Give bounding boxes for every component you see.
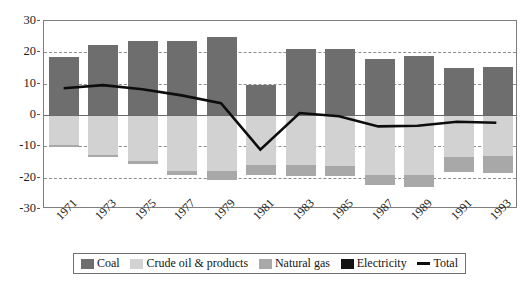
bar-group	[444, 21, 474, 207]
bar-segment-coal	[325, 49, 355, 115]
plot-area	[43, 20, 517, 208]
bar-segment-natural-gas	[365, 175, 395, 186]
bar-segment-coal	[365, 59, 395, 115]
legend-label: Electricity	[357, 256, 407, 271]
y-tick-mark	[37, 51, 40, 52]
y-tick-mark	[37, 177, 40, 178]
y-tick-label: 10	[24, 76, 37, 89]
y-tick-mark	[37, 83, 40, 84]
bar-segment-coal	[49, 57, 79, 115]
y-tick-label: -10	[19, 139, 36, 152]
bar-segment-natural-gas	[444, 157, 474, 172]
bar-segment-crude-oil	[444, 115, 474, 157]
y-tick-mark	[37, 208, 40, 209]
y-tick-label: -30	[19, 202, 36, 215]
bar-segment-natural-gas	[167, 171, 197, 174]
electricity-swatch	[341, 259, 354, 269]
bar-group	[128, 21, 158, 207]
coal-swatch	[81, 259, 94, 269]
bar-segment-crude-oil	[246, 115, 276, 165]
bar-segment-natural-gas	[246, 165, 276, 175]
bar-segment-coal	[128, 41, 158, 115]
bar-segment-crude-oil	[167, 115, 197, 171]
energy-balance-chart: 3020100-10-20-30 19711973197519771979198…	[0, 0, 531, 290]
bar-segment-natural-gas	[128, 161, 158, 164]
bar-segment-crude-oil	[365, 115, 395, 175]
legend-item[interactable]: Electricity	[341, 256, 407, 271]
bar-segment-crude-oil	[483, 115, 513, 156]
bar-group	[404, 21, 434, 207]
y-tick-mark	[37, 145, 40, 146]
bar-group	[246, 21, 276, 207]
y-tick-label: 0	[30, 108, 36, 121]
legend-label: Crude oil & products	[146, 256, 248, 271]
bar-segment-natural-gas	[207, 171, 237, 180]
bar-segment-natural-gas	[325, 166, 355, 176]
bar-group	[365, 21, 395, 207]
chart-legend: CoalCrude oil & productsNatural gasElect…	[73, 253, 466, 274]
legend-label: Total	[433, 256, 458, 271]
bar-segment-natural-gas	[404, 175, 434, 187]
bar-segment-coal	[404, 56, 434, 115]
legend-label: Natural gas	[275, 256, 330, 271]
y-tick-mark	[37, 20, 40, 21]
bar-segment-coal	[167, 41, 197, 115]
bar-group	[49, 21, 79, 207]
bar-segment-crude-oil	[404, 115, 434, 175]
bar-segment-coal	[444, 68, 474, 115]
natural-gas-swatch	[259, 259, 272, 269]
bar-group	[88, 21, 118, 207]
legend-item[interactable]: Crude oil & products	[130, 256, 248, 271]
bar-group	[167, 21, 197, 207]
x-axis: 1971197319751977197919811983198519871989…	[43, 209, 517, 249]
bar-segment-crude-oil	[88, 115, 118, 155]
zero-line	[44, 115, 516, 116]
bar-segment-natural-gas	[483, 156, 513, 173]
crude-oil-swatch	[130, 259, 143, 269]
bar-group	[286, 21, 316, 207]
bar-segment-coal	[207, 37, 237, 115]
bar-segment-crude-oil	[207, 115, 237, 171]
y-tick-label: 20	[24, 45, 37, 58]
y-axis: 3020100-10-20-30	[0, 20, 40, 208]
bar-segment-coal	[483, 67, 513, 115]
bar-segment-crude-oil	[286, 115, 316, 165]
bar-segment-coal	[88, 45, 118, 116]
y-tick-label: -20	[19, 170, 36, 183]
bar-segment-natural-gas	[49, 145, 79, 147]
total-line-swatch	[417, 262, 430, 265]
legend-item[interactable]: Natural gas	[259, 256, 330, 271]
bar-segment-crude-oil	[128, 115, 158, 161]
bar-segment-crude-oil	[325, 115, 355, 166]
bar-segment-natural-gas	[88, 155, 118, 157]
legend-item[interactable]: Total	[417, 256, 458, 271]
bar-group	[325, 21, 355, 207]
y-tick-label: 30	[24, 14, 37, 27]
bar-group	[207, 21, 237, 207]
bar-segment-coal	[246, 85, 276, 115]
legend-item[interactable]: Coal	[81, 256, 120, 271]
legend-label: Coal	[97, 256, 120, 271]
y-tick-mark	[37, 114, 40, 115]
bar-segment-coal	[286, 49, 316, 115]
bar-group	[483, 21, 513, 207]
bar-segment-natural-gas	[286, 165, 316, 176]
bar-segment-crude-oil	[49, 115, 79, 145]
